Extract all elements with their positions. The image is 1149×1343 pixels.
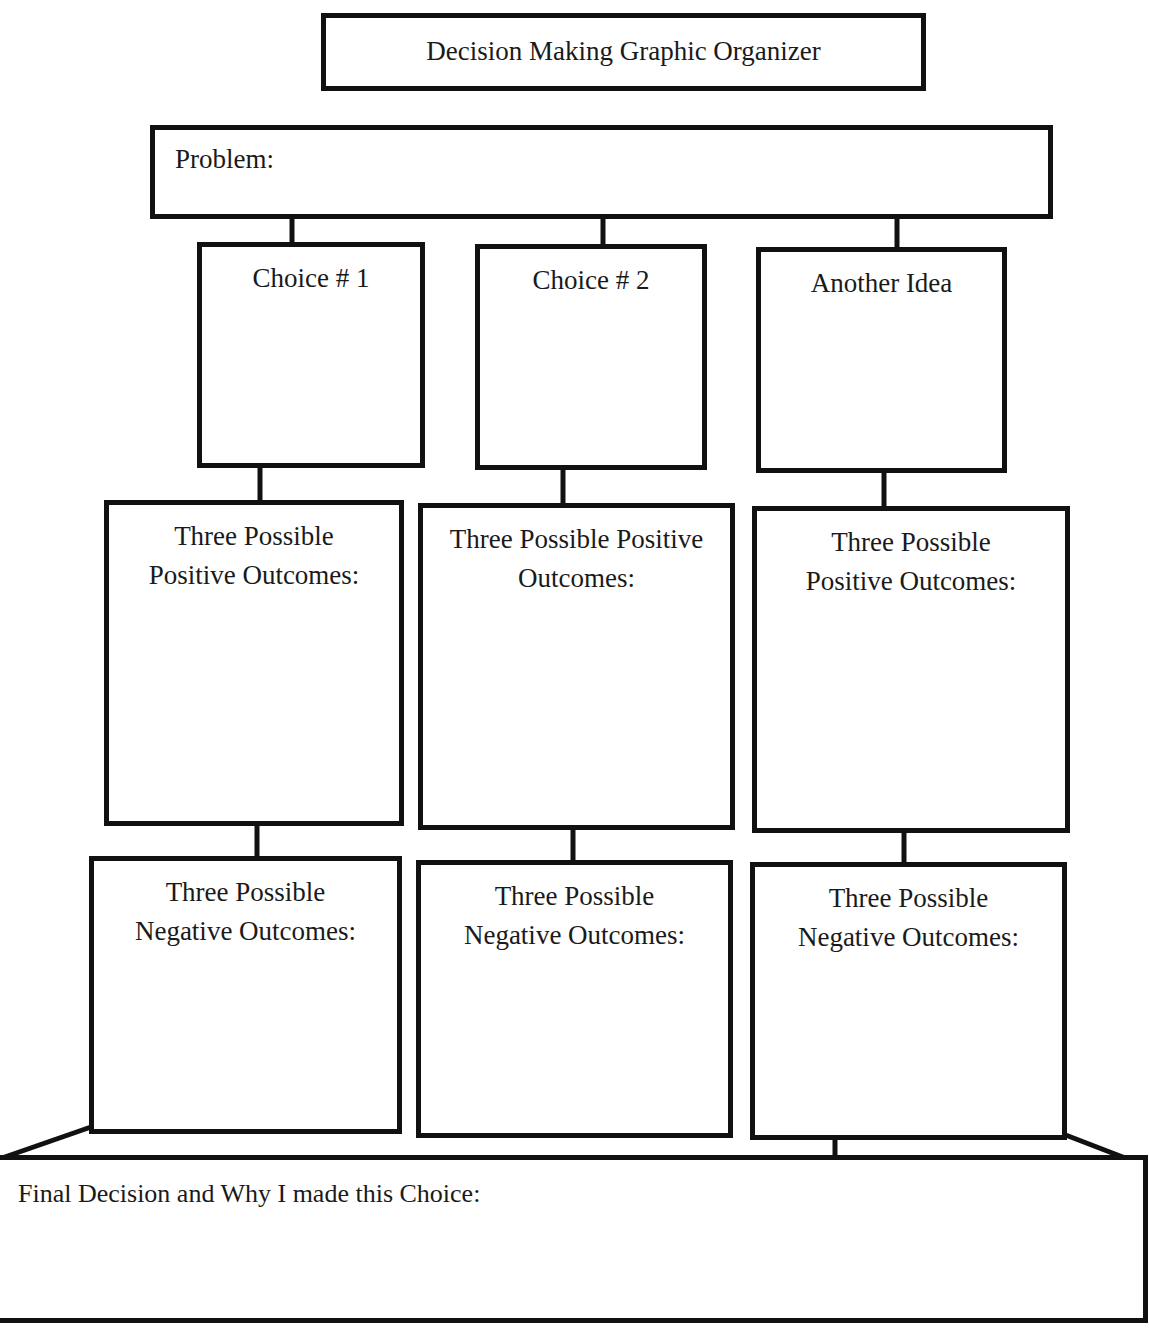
final-decision-box[interactable]: Final Decision and Why I made this Choic…	[0, 1155, 1148, 1323]
title-box: Decision Making Graphic Organizer	[321, 13, 926, 91]
choice-box-3[interactable]: Another Idea	[756, 247, 1007, 473]
choice-box-1[interactable]: Choice # 1	[197, 242, 425, 468]
positive-outcomes-label-3: Three Possible Positive Outcomes:	[757, 523, 1065, 601]
final-decision-label: Final Decision and Why I made this Choic…	[18, 1174, 480, 1213]
positive-outcomes-box-3[interactable]: Three Possible Positive Outcomes:	[752, 506, 1070, 833]
choice-label-3: Another Idea	[761, 264, 1002, 303]
negative-outcomes-label-2: Three Possible Negative Outcomes:	[421, 877, 728, 955]
positive-outcomes-box-1[interactable]: Three Possible Positive Outcomes:	[104, 500, 404, 826]
negative-outcomes-box-2[interactable]: Three Possible Negative Outcomes:	[416, 860, 733, 1138]
choice-label-2: Choice # 2	[480, 261, 702, 300]
negative-outcomes-box-3[interactable]: Three Possible Negative Outcomes:	[750, 862, 1067, 1140]
negative-outcomes-label-1: Three Possible Negative Outcomes:	[94, 873, 397, 951]
page-title: Decision Making Graphic Organizer	[326, 32, 921, 71]
negative-outcomes-label-3: Three Possible Negative Outcomes:	[755, 879, 1062, 957]
choice-box-2[interactable]: Choice # 2	[475, 244, 707, 470]
problem-box[interactable]: Problem:	[150, 125, 1053, 219]
positive-outcomes-box-2[interactable]: Three Possible Positive Outcomes:	[418, 503, 735, 830]
problem-label: Problem:	[175, 140, 274, 179]
positive-outcomes-label-1: Three Possible Positive Outcomes:	[109, 517, 399, 595]
choice-label-1: Choice # 1	[202, 259, 420, 298]
negative-outcomes-box-1[interactable]: Three Possible Negative Outcomes:	[89, 856, 402, 1134]
positive-outcomes-label-2: Three Possible Positive Outcomes:	[423, 520, 730, 598]
